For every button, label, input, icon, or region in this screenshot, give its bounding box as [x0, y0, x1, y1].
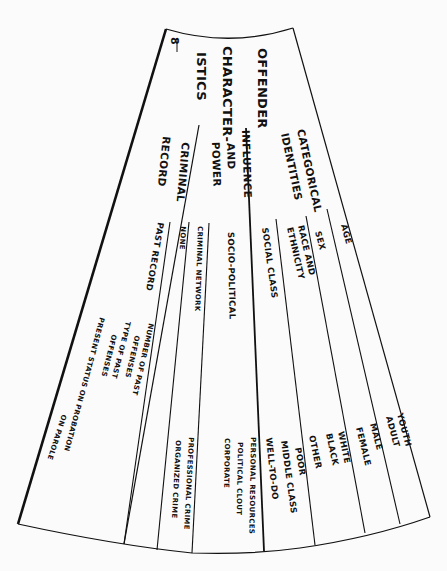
item-criminal-network: CRIMINAL NETWORK [193, 226, 204, 312]
section-label-line-1: CRIMINAL [175, 142, 192, 203]
bottom-arc [18, 517, 430, 553]
value-poor: POOR [293, 447, 308, 477]
value-political-clout: POLITICAL CLOUT [235, 442, 244, 515]
item-social-class: SOCIAL CLASS [260, 227, 280, 299]
item-none: NONE [178, 226, 187, 250]
value-personal-resources: PERSONAL RESOURCES [247, 437, 257, 534]
value-male: MALE [368, 422, 385, 451]
item-past-record: PAST RECORD [144, 222, 166, 292]
value-professional-crime: PROFESSIONAL CRIME [182, 437, 195, 530]
title-line-2: CHARACTER- [220, 46, 235, 142]
value-well-to-do: WELL-TO-DO [264, 437, 280, 500]
item-socio-political: SOCIO-POLITICAL [226, 232, 238, 320]
item-age: AGE [339, 223, 354, 245]
left-edge [18, 29, 166, 524]
section-label-line-3: POWER [210, 142, 224, 187]
item-sex: SEX [313, 230, 328, 251]
value-other: OTHER [307, 434, 324, 469]
title-line-3: ISTICS [194, 52, 209, 101]
divider-none-past [124, 222, 170, 544]
section-label-line-2: RECORD [156, 136, 173, 187]
top-arc [166, 28, 293, 38]
offender-characteristics-fan-diagram: 8 OFFENDER CHARACTER- ISTICS CATEGORICAL… [0, 0, 447, 571]
section-label-line-2: AND [225, 143, 238, 170]
value-organized-crime: ORGANIZED CRIME [170, 440, 182, 519]
title: OFFENDER CHARACTER- ISTICS [194, 46, 270, 142]
item-present-status: PRESENT STATUS ON PROBATION [62, 316, 106, 452]
value-corporate: CORPORATE [222, 438, 231, 488]
page-number-text: 8 [168, 37, 181, 45]
page-number: 8 [168, 37, 181, 45]
title-line-1: OFFENDER [255, 48, 270, 129]
divider-age-sex [327, 209, 400, 524]
section-label-line-1: INFLUENCE [240, 130, 254, 199]
